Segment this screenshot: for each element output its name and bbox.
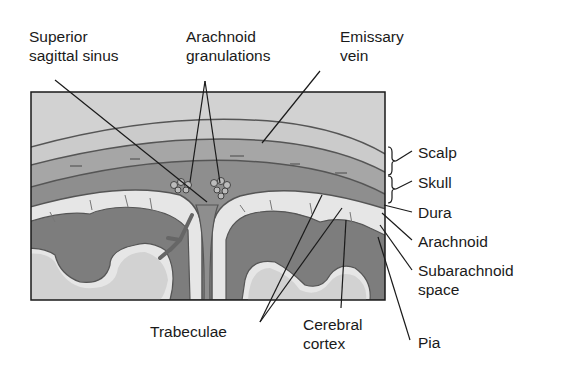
label-arachnoid-granulations: Arachnoid granulations xyxy=(186,27,270,65)
label-emissary-vein: Emissary vein xyxy=(340,27,404,65)
label-cerebral-cortex: Cerebral cortex xyxy=(303,315,362,353)
scalp-brace xyxy=(388,147,396,175)
label-skull: Skull xyxy=(418,173,452,192)
label-subarachnoid-space: Subarachnoid space xyxy=(418,261,514,299)
label-pia: Pia xyxy=(418,333,440,352)
label-arachnoid: Arachnoid xyxy=(418,232,488,251)
label-dura: Dura xyxy=(418,203,452,222)
label-trabeculae: Trabeculae xyxy=(150,322,227,341)
label-scalp: Scalp xyxy=(418,143,457,162)
label-superior-sagittal-sinus: Superior sagittal sinus xyxy=(29,27,119,65)
skull-brace xyxy=(388,176,396,203)
